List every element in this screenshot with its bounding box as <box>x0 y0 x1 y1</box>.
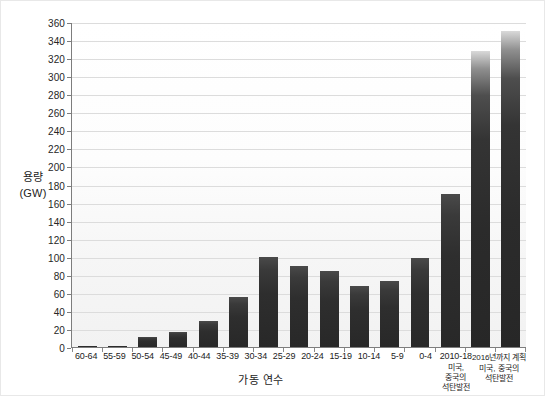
y-tick-mark <box>67 204 71 205</box>
bar[interactable] <box>138 337 157 347</box>
bar-slot <box>405 22 435 347</box>
x-label-slot: 50-54 <box>129 351 157 393</box>
y-tick-mark <box>67 294 71 295</box>
y-tick-mark <box>67 222 71 223</box>
x-tick-label: 2010-18 <box>440 351 472 361</box>
bar[interactable] <box>259 257 278 347</box>
y-tick-mark <box>67 348 71 349</box>
x-tick-sublabel: 미국, 중국의 석탄발전 <box>440 363 472 393</box>
y-tick-mark <box>67 276 71 277</box>
x-tick-label: 25-29 <box>270 351 298 361</box>
y-tick-mark <box>67 330 71 331</box>
x-tick-label: 45-49 <box>157 351 185 361</box>
plot-area: 0204060801001201401601802002202402602803… <box>71 23 526 348</box>
x-label-slot: 55-59 <box>100 351 128 393</box>
x-tick-label: 10-14 <box>355 351 383 361</box>
bar-slot <box>102 22 132 347</box>
y-tick-label: 0 <box>59 343 65 354</box>
bar[interactable] <box>290 266 309 347</box>
y-tick-label: 180 <box>48 180 65 191</box>
y-tick-mark <box>67 41 71 42</box>
x-label-slot: 0-4 <box>411 351 439 393</box>
x-label-slot: 60-64 <box>72 351 100 393</box>
bar[interactable] <box>380 281 399 347</box>
bar-slot <box>496 22 526 347</box>
y-tick-label: 340 <box>48 36 65 47</box>
bar-slot <box>344 22 374 347</box>
y-tick-label: 220 <box>48 144 65 155</box>
bar-slot <box>254 22 284 347</box>
bar-slot <box>284 22 314 347</box>
y-tick-mark <box>67 77 71 78</box>
y-tick-label: 280 <box>48 90 65 101</box>
x-axis-title: 가동 연수 <box>181 371 341 387</box>
bar[interactable] <box>229 297 248 347</box>
bar-series <box>72 22 526 347</box>
y-tick-mark <box>67 149 71 150</box>
x-label-slot: 5-9 <box>383 351 411 393</box>
bar-slot <box>314 22 344 347</box>
x-tick-label: 40-44 <box>185 351 213 361</box>
x-label-slot: 2016년까지 계획미국, 중국의 석탄발전 <box>472 351 526 393</box>
y-tick-label: 20 <box>54 324 65 335</box>
y-tick-mark <box>67 240 71 241</box>
y-tick-mark <box>67 59 71 60</box>
x-tick-sublabel: 미국, 중국의 석탄발전 <box>472 364 526 384</box>
x-tick-label: 0-4 <box>411 351 439 361</box>
y-tick-label: 120 <box>48 234 65 245</box>
x-label-slot: 10-14 <box>355 351 383 393</box>
bar-slot <box>465 22 495 347</box>
bar[interactable] <box>471 51 490 347</box>
x-tick-label: 20-24 <box>298 351 326 361</box>
bar[interactable] <box>108 346 127 347</box>
bar-slot <box>193 22 223 347</box>
y-tick-mark <box>67 95 71 96</box>
bar[interactable] <box>350 286 369 347</box>
bar[interactable] <box>441 194 460 347</box>
y-tick-label: 240 <box>48 126 65 137</box>
y-tick-mark <box>67 23 71 24</box>
y-tick-label: 100 <box>48 252 65 263</box>
y-tick-label: 140 <box>48 216 65 227</box>
y-tick-mark <box>67 167 71 168</box>
bar-slot <box>375 22 405 347</box>
y-tick-label: 260 <box>48 108 65 119</box>
bar-chart-figure: 용량 (GW) 02040608010012014016018020022024… <box>0 0 545 396</box>
bar-slot <box>163 22 193 347</box>
y-tick-label: 160 <box>48 198 65 209</box>
x-tick-label: 35-39 <box>213 351 241 361</box>
y-tick-mark <box>67 258 71 259</box>
y-tick-label: 60 <box>54 288 65 299</box>
bar[interactable] <box>320 271 339 347</box>
y-tick-mark <box>67 312 71 313</box>
x-tick-label: 15-19 <box>327 351 355 361</box>
y-tick-label: 320 <box>48 54 65 65</box>
x-tick-label: 55-59 <box>100 351 128 361</box>
y-tick-mark <box>67 131 71 132</box>
y-tick-mark <box>67 113 71 114</box>
y-tick-label: 200 <box>48 162 65 173</box>
bar-slot <box>133 22 163 347</box>
y-tick-label: 300 <box>48 72 65 83</box>
bar[interactable] <box>199 321 218 347</box>
bar[interactable] <box>411 258 430 347</box>
bar-slot <box>435 22 465 347</box>
x-tick-label: 60-64 <box>72 351 100 361</box>
bar-slot <box>72 22 102 347</box>
bar-slot <box>223 22 253 347</box>
x-tick-label: 5-9 <box>383 351 411 361</box>
y-tick-label: 80 <box>54 270 65 281</box>
x-tick-label: 2016년까지 계획 <box>472 351 526 362</box>
x-tick-label: 50-54 <box>129 351 157 361</box>
bar[interactable] <box>169 332 188 347</box>
x-label-slot: 2010-18미국, 중국의 석탄발전 <box>440 351 472 393</box>
y-tick-label: 40 <box>54 306 65 317</box>
bar[interactable] <box>501 31 520 347</box>
y-tick-label: 360 <box>48 18 65 29</box>
x-tick-label: 30-34 <box>242 351 270 361</box>
bar[interactable] <box>78 346 97 347</box>
y-tick-mark <box>67 186 71 187</box>
